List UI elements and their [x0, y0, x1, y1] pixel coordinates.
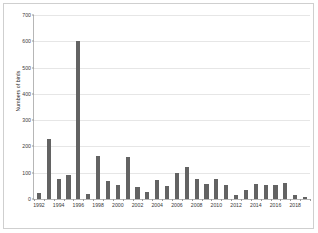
x-tick-label: 2016 [270, 202, 282, 208]
x-tick-mark [231, 199, 232, 201]
y-tick-label: 300 [22, 117, 31, 123]
x-tick-label: 1992 [33, 202, 45, 208]
bar [204, 184, 208, 199]
bar [66, 175, 70, 199]
x-tick-mark [241, 199, 242, 201]
y-tick-label: 700 [22, 12, 31, 18]
bar [126, 157, 130, 199]
bar [135, 187, 139, 199]
bar [273, 185, 277, 199]
x-tick-mark [54, 199, 55, 201]
x-axis-labels: 1992199419961998200020022004200620082010… [34, 202, 310, 214]
y-tick-label: 500 [22, 65, 31, 71]
x-tick-mark [73, 199, 74, 201]
x-tick-mark [34, 199, 35, 201]
x-tick-label: 2000 [112, 202, 124, 208]
y-tick-label: 200 [22, 143, 31, 149]
x-tick-mark [172, 199, 173, 201]
bar [224, 185, 228, 199]
x-tick-label: 2004 [151, 202, 163, 208]
x-tick-mark [261, 199, 262, 201]
x-tick-mark [123, 199, 124, 201]
x-tick-mark [93, 199, 94, 201]
x-tick-mark [133, 199, 134, 201]
x-tick-mark [300, 199, 301, 201]
x-tick-label: 2010 [211, 202, 223, 208]
bar [185, 167, 189, 199]
bars-layer [34, 15, 310, 199]
bar [214, 179, 218, 199]
x-tick-mark [64, 199, 65, 201]
x-tick-mark [202, 199, 203, 201]
bar [165, 186, 169, 199]
x-tick-mark [221, 199, 222, 201]
x-tick-mark [271, 199, 272, 201]
x-tick-mark [142, 199, 143, 201]
x-tick-label: 1994 [53, 202, 65, 208]
y-axis-title: Numbers of birds [15, 51, 21, 131]
x-tick-label: 2006 [171, 202, 183, 208]
x-tick-mark [152, 199, 153, 201]
bar [283, 183, 287, 199]
bar [76, 41, 80, 199]
x-tick-mark [310, 199, 311, 201]
x-tick-mark [192, 199, 193, 201]
x-tick-label: 1996 [73, 202, 85, 208]
x-tick-mark [44, 199, 45, 201]
y-tick-label: 400 [22, 91, 31, 97]
x-tick-mark [211, 199, 212, 201]
x-tick-label: 2018 [289, 202, 301, 208]
plot-area: 0100200300400500600700 19921994199619982… [33, 15, 310, 200]
bar [57, 179, 61, 199]
x-tick-mark [83, 199, 84, 201]
bar [116, 185, 120, 199]
bar [244, 190, 248, 199]
bar [106, 181, 110, 199]
bar [47, 139, 51, 199]
x-tick-mark [162, 199, 163, 201]
bar [145, 192, 149, 199]
bar-chart-figure: Numbers of birds 0100200300400500600700 … [0, 0, 318, 233]
bar [195, 179, 199, 200]
bar [155, 180, 159, 199]
x-tick-label: 2008 [191, 202, 203, 208]
x-tick-label: 2012 [230, 202, 242, 208]
x-tick-mark [251, 199, 252, 201]
x-tick-mark [103, 199, 104, 201]
x-tick-label: 1998 [92, 202, 104, 208]
x-tick-mark [182, 199, 183, 201]
x-tick-label: 2014 [250, 202, 262, 208]
bar [175, 173, 179, 199]
y-tick-label: 600 [22, 38, 31, 44]
bar [264, 185, 268, 199]
x-tick-mark [290, 199, 291, 201]
x-tick-mark [113, 199, 114, 201]
x-tick-mark [280, 199, 281, 201]
y-tick-label: 0 [28, 196, 31, 202]
y-tick-label: 100 [22, 170, 31, 176]
bar [254, 184, 258, 199]
bar [96, 156, 100, 199]
x-tick-label: 2002 [132, 202, 144, 208]
